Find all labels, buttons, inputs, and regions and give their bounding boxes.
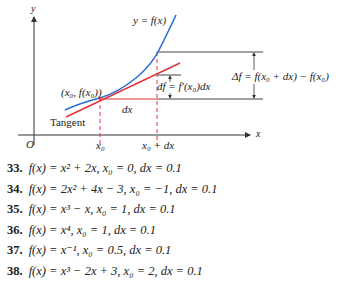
origin-label: O (26, 139, 34, 150)
exercise-item: 33.f(x) = x² + 2x, x₀ = 0, dx = 0.1 (7, 158, 347, 179)
x0-plus-dx-label: x₀ + dx (142, 140, 174, 151)
df-label: df = f′(x₀)dx (157, 81, 210, 92)
exercise-text: f(x) = x⁻¹, x₀ = 0.5, dx = 0.1 (29, 243, 172, 257)
exercise-number: 33. (7, 161, 23, 175)
exercise-item: 36.f(x) = x⁴, x₀ = 1, dx = 0.1 (7, 220, 347, 241)
tangent-label: Tangent (50, 117, 85, 128)
exercise-item: 37.f(x) = x⁻¹, x₀ = 0.5, dx = 0.1 (7, 240, 347, 261)
exercise-number: 35. (7, 202, 23, 216)
point-label: (x₀, f(x₀)) (61, 87, 102, 98)
x-axis-label: x (256, 129, 260, 139)
dx-label: dx (122, 104, 132, 115)
exercise-number: 36. (7, 223, 23, 237)
exercise-number: 38. (7, 264, 23, 278)
x0-label: x₀ (96, 140, 105, 151)
curve-label: y = f(x) (133, 15, 166, 26)
delta-f-label: Δf = f(x₀ + dx) − f(x₀) (232, 71, 329, 82)
differential-figure: y x O y = f(x) (x₀, f(x₀)) Tangent dx x₀… (0, 0, 349, 150)
y-axis-label: y (31, 4, 35, 14)
exercise-number: 37. (7, 243, 23, 257)
exercise-item: 38.f(x) = x³ − 2x + 3, x₀ = 2, dx = 0.1 (7, 261, 347, 282)
exercise-list: 33.f(x) = x² + 2x, x₀ = 0, dx = 0.1 34.f… (7, 158, 347, 281)
exercise-item: 34.f(x) = 2x² + 4x − 3, x₀ = −1, dx = 0.… (7, 179, 347, 200)
exercise-text: f(x) = x⁴, x₀ = 1, dx = 0.1 (29, 223, 156, 237)
exercise-text: f(x) = x³ − x, x₀ = 1, dx = 0.1 (29, 202, 176, 216)
exercise-text: f(x) = x³ − 2x + 3, x₀ = 2, dx = 0.1 (29, 264, 203, 278)
exercise-item: 35.f(x) = x³ − x, x₀ = 1, dx = 0.1 (7, 199, 347, 220)
exercise-number: 34. (7, 182, 23, 196)
exercise-text: f(x) = 2x² + 4x − 3, x₀ = −1, dx = 0.1 (29, 182, 218, 196)
exercise-text: f(x) = x² + 2x, x₀ = 0, dx = 0.1 (29, 161, 182, 175)
